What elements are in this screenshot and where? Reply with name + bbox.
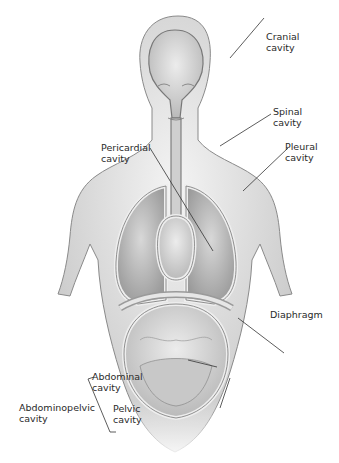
label-cranial-cavity: Cranial cavity xyxy=(266,31,299,53)
pericardial-cavity-shape xyxy=(158,216,195,280)
spinal-cavity-shape xyxy=(171,118,181,218)
label-spinal-cavity: Spinal cavity xyxy=(273,106,302,128)
abdominopelvic-cavity-shape xyxy=(124,304,228,418)
label-pelvic-cavity: Pelvic cavity xyxy=(113,403,142,425)
label-abdominopelvic-cavity: Abdominopelvic cavity xyxy=(19,402,95,424)
label-pericardial-cavity: Pericardial cavity xyxy=(101,142,151,164)
label-abdominal-cavity: Abdominal cavity xyxy=(92,371,143,393)
body-cavities-illustration xyxy=(0,0,339,463)
label-diaphragm: Diaphragm xyxy=(270,309,323,320)
label-pleural-cavity: Pleural cavity xyxy=(285,141,318,163)
